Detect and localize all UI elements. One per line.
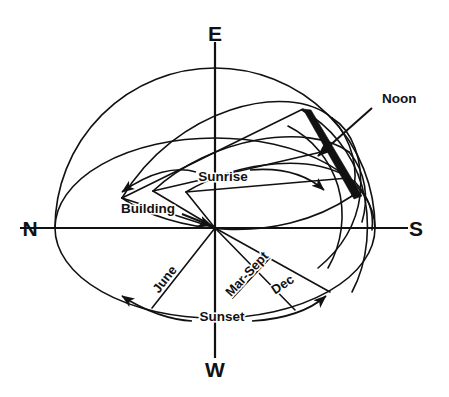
sun-path-canvas: E W N S Noon Building Sunrise Sunset Jun… (0, 0, 449, 397)
season-label-mar-sept: Mar-Sept (222, 248, 271, 299)
sunrise-arc-right (250, 169, 324, 190)
sunset-label: Sunset (199, 309, 245, 324)
sunrise-label: Sunrise (198, 169, 248, 184)
meridian-ring-inner (288, 126, 342, 268)
season-label-dec: Dec (268, 271, 296, 297)
sunset-arc-left (122, 296, 192, 321)
compass-label-south: S (409, 217, 423, 240)
labels: E W N S Noon Building Sunrise Sunset Jun… (22, 22, 423, 381)
sun-path-diagram: E W N S Noon Building Sunrise Sunset Jun… (0, 0, 449, 397)
meridian-ring-mid (302, 110, 367, 292)
ray-sunset-june (152, 228, 215, 308)
solar-arc-marsept-upper (153, 137, 349, 191)
noon-label: Noon (382, 91, 417, 106)
compass-label-west: W (205, 358, 225, 381)
compass-label-north: N (22, 217, 37, 240)
building-label: Building (121, 201, 175, 216)
compass-label-east: E (208, 22, 222, 45)
